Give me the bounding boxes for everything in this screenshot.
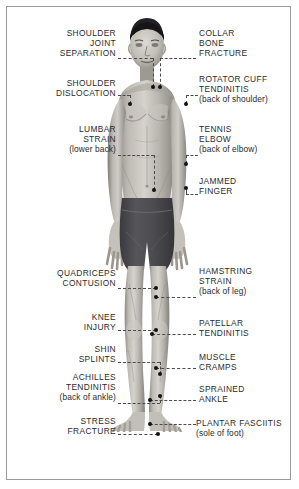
label-note: (lower back) bbox=[12, 144, 116, 154]
label-note: (sole of foot) bbox=[196, 428, 296, 438]
label-line: CONTUSION bbox=[12, 278, 116, 288]
label-line: CRAMPS bbox=[199, 362, 295, 372]
leader-line-sprained-ankle bbox=[150, 400, 196, 401]
injury-marker-muscle-cramps[interactable] bbox=[154, 366, 158, 370]
injury-marker-tennis-elbow[interactable] bbox=[184, 162, 188, 166]
label-line: DISLOCATION bbox=[12, 88, 116, 98]
label-line: PATELLAR bbox=[199, 318, 295, 328]
injury-label-rotator-cuff-tendinitis: ROTATOR CUFFTENDINITIS(back of shoulder) bbox=[199, 74, 295, 105]
leader-line-patellar-tendinitis bbox=[152, 334, 196, 335]
label-note: (back of elbow) bbox=[199, 144, 295, 154]
leader-line-tennis-elbow bbox=[186, 155, 198, 156]
leader-line-knee-injury bbox=[118, 330, 156, 331]
injury-label-stress-fracture: STRESSFRACTURE bbox=[12, 416, 116, 436]
human-figure-illustration bbox=[88, 14, 206, 432]
injury-marker-stress-fracture[interactable] bbox=[156, 432, 160, 436]
label-line: TENDINITIS bbox=[199, 328, 295, 338]
label-line: SHIN bbox=[12, 344, 116, 354]
label-line: SPLINTS bbox=[12, 354, 116, 364]
label-line: TENDINITIS bbox=[199, 84, 295, 94]
injury-label-patellar-tendinitis: PATELLARTENDINITIS bbox=[199, 318, 295, 338]
injury-marker-plantar-fasciitis[interactable] bbox=[148, 422, 152, 426]
injury-marker-shoulder-dislocation[interactable] bbox=[128, 102, 132, 106]
injury-marker-rotator-cuff-tendinitis[interactable] bbox=[184, 102, 188, 106]
injury-marker-collar-bone-fracture[interactable] bbox=[158, 85, 162, 89]
injury-marker-shin-splints[interactable] bbox=[158, 372, 162, 376]
label-line: MUSCLE bbox=[199, 352, 295, 362]
label-line: FRACTURE bbox=[199, 48, 295, 58]
label-line: HAMSTRING bbox=[199, 266, 295, 276]
label-line: ANKLE bbox=[199, 394, 295, 404]
leader-line-muscle-cramps bbox=[156, 368, 196, 369]
leader-line-shoulder-dislocation bbox=[118, 95, 130, 96]
label-line: LUMBAR bbox=[12, 124, 116, 134]
injury-marker-achilles-tendinitis[interactable] bbox=[158, 394, 162, 398]
leader-line-shin-splints bbox=[118, 362, 160, 363]
injury-label-shoulder-joint-separation: SHOULDERJOINTSEPARATION bbox=[12, 28, 116, 59]
label-line: ACHILLES bbox=[8, 372, 116, 382]
injury-label-tennis-elbow: TENNISELBOW(back of elbow) bbox=[199, 124, 295, 155]
injury-marker-quadriceps-contusion[interactable] bbox=[154, 286, 158, 290]
label-line: QUADRICEPS bbox=[12, 268, 116, 278]
label-line: JOINT bbox=[12, 38, 116, 48]
injury-label-hamstring-strain: HAMSTRINGSTRAIN(back of leg) bbox=[199, 266, 295, 297]
leader-line-vertical-shoulder-joint-separation bbox=[153, 58, 154, 87]
label-line: STRAIN bbox=[199, 276, 295, 286]
leader-line-collar-bone-fracture bbox=[160, 58, 196, 59]
leader-line-vertical-collar-bone-fracture bbox=[160, 58, 161, 87]
injury-marker-lumbar-strain[interactable] bbox=[152, 188, 156, 192]
label-line: TENDINITIS bbox=[8, 382, 116, 392]
label-line: STRAIN bbox=[12, 134, 116, 144]
injury-marker-patellar-tendinitis[interactable] bbox=[150, 332, 154, 336]
injury-marker-hamstring-strain[interactable] bbox=[154, 295, 158, 299]
leader-line-vertical-lumbar-strain bbox=[154, 155, 155, 190]
leader-line-rotator-cuff-tendinitis bbox=[186, 95, 198, 96]
leader-line-stress-fracture bbox=[118, 434, 158, 435]
label-line: STRESS bbox=[12, 416, 116, 426]
leader-line-jammed-finger bbox=[186, 194, 198, 195]
injury-label-plantar-fasciitis: PLANTAR FASCIITIS(sole of foot) bbox=[196, 418, 296, 438]
label-line: COLLAR bbox=[199, 28, 295, 38]
label-line: SEPARATION bbox=[12, 48, 116, 58]
label-line: ELBOW bbox=[199, 134, 295, 144]
label-line: ROTATOR CUFF bbox=[199, 74, 295, 84]
leader-line-hamstring-strain bbox=[156, 297, 196, 298]
label-line: SHOULDER bbox=[12, 28, 116, 38]
label-line: FRACTURE bbox=[12, 426, 116, 436]
leader-line-plantar-fasciitis bbox=[150, 424, 196, 425]
injury-marker-shoulder-joint-separation[interactable] bbox=[151, 85, 155, 89]
injury-label-lumbar-strain: LUMBARSTRAIN(lower back) bbox=[12, 124, 116, 155]
injury-label-muscle-cramps: MUSCLECRAMPS bbox=[199, 352, 295, 372]
leader-line-quadriceps-contusion bbox=[118, 288, 156, 289]
body-map-stage: SHOULDERJOINTSEPARATIONSHOULDERDISLOCATI… bbox=[0, 0, 299, 489]
injury-marker-sprained-ankle[interactable] bbox=[148, 398, 152, 402]
label-line: INJURY bbox=[12, 322, 116, 332]
injury-label-knee-injury: KNEEINJURY bbox=[12, 312, 116, 332]
label-note: (back of leg) bbox=[199, 286, 295, 296]
injury-label-collar-bone-fracture: COLLARBONEFRACTURE bbox=[199, 28, 295, 59]
label-line: SHOULDER bbox=[12, 78, 116, 88]
label-note: (back of shoulder) bbox=[199, 94, 295, 104]
label-line: JAMMED bbox=[199, 176, 295, 186]
label-line: BONE bbox=[199, 38, 295, 48]
label-line: SPRAINED bbox=[199, 384, 295, 394]
leader-line-lumbar-strain bbox=[118, 155, 154, 156]
injury-label-achilles-tendinitis: ACHILLESTENDINITIS(back of ankle) bbox=[8, 372, 116, 403]
label-line: FINGER bbox=[199, 186, 295, 196]
label-line: PLANTAR FASCIITIS bbox=[196, 418, 296, 428]
leader-line-achilles-tendinitis bbox=[118, 403, 160, 404]
label-line: KNEE bbox=[12, 312, 116, 322]
injury-label-jammed-finger: JAMMEDFINGER bbox=[199, 176, 295, 196]
injury-marker-jammed-finger[interactable] bbox=[184, 186, 188, 190]
label-note: (back of ankle) bbox=[8, 392, 116, 402]
injury-label-sprained-ankle: SPRAINEDANKLE bbox=[199, 384, 295, 404]
injury-label-quadriceps-contusion: QUADRICEPSCONTUSION bbox=[12, 268, 116, 288]
injury-label-shoulder-dislocation: SHOULDERDISLOCATION bbox=[12, 78, 116, 98]
label-line: TENNIS bbox=[199, 124, 295, 134]
injury-label-shin-splints: SHINSPLINTS bbox=[12, 344, 116, 364]
leader-line-shoulder-joint-separation bbox=[118, 58, 153, 59]
injury-marker-knee-injury[interactable] bbox=[154, 328, 158, 332]
